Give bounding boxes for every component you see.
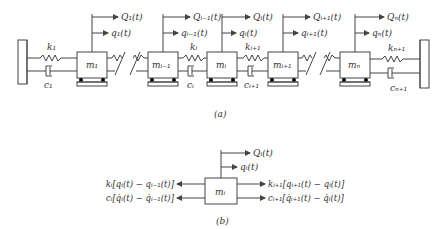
damper-c-i [178,66,207,76]
right-wall [420,40,429,88]
spring-k-n-plus-1 [370,56,420,62]
damper-c-i-plus-1 [237,66,268,76]
free-body-Q-label: Qᵢ(t) [253,148,273,158]
spring-k1 [27,55,77,61]
damper-c-n-plus-1-label: cₙ₊₁ [390,83,407,93]
mass-m-i-label: mᵢ [216,60,227,70]
left-damper-force-label: cᵢ[q̇ᵢ(t) − q̇ᵢ₋₁(t)] [106,193,175,203]
mass-m-n-label: mₙ [348,60,361,70]
left-wall [18,40,27,84]
damper-c-n-plus-1 [370,68,420,78]
disp-q1-label: q₁(t) [111,28,131,38]
damper-c1 [27,66,77,76]
mass-m-i-plus-1 [268,14,310,86]
mass-m-i-plus-1-label: mᵢ₊₁ [273,60,292,70]
damper-c-i-label: cᵢ [187,80,194,90]
left-spring-force-label: kᵢ[qᵢ(t) − qᵢ₋₁(t)] [106,179,175,189]
figure-b: mᵢ Qᵢ(t) qᵢ(t) kᵢ[qᵢ(t) − qᵢ₋₁(t)] cᵢ[q̇… [106,148,345,226]
mass-m-i [207,14,250,86]
spring-k1-label: k₁ [47,42,56,52]
damper-c-i-plus-1-label: cᵢ₊₁ [244,80,259,90]
mass-m-i-minus-1-label: mᵢ₋₁ [152,60,171,70]
disp-q-i-label: qᵢ(t) [239,28,258,38]
force-Q-i-minus-1-label: Qᵢ₋₁(t) [193,12,222,22]
spring-k-i [178,55,207,61]
disp-q-i-plus-1-label: qᵢ₊₁(t) [301,28,328,38]
right-spring-force-label: kᵢ₊₁[qᵢ₊₁(t) − qᵢ(t)] [268,179,345,189]
free-body-mass-label: mᵢ [215,187,226,197]
force-Q-n-label: Qₙ(t) [387,12,409,22]
damper-c1-label: c₁ [44,80,53,90]
force-Q-i-label: Qᵢ(t) [253,12,273,22]
disp-q-i-minus-1-label: qᵢ₋₁(t) [181,28,208,38]
mass-m1-label: m₁ [86,60,98,70]
force-Q1-label: Q₁(t) [121,12,143,22]
free-body-q-label: qᵢ(t) [240,162,259,172]
mass-m-n [340,14,384,86]
spring-k-i-plus-1 [237,55,268,61]
mass-m1 [77,14,118,86]
disp-q-n-label: qₙ(t) [372,28,393,38]
break-1 [107,52,148,75]
caption-a: (a) [214,109,227,119]
break-2 [298,52,340,75]
caption-b: (b) [216,216,229,226]
mass-m-i-minus-1 [148,14,190,86]
spring-k-i-label: kᵢ [190,42,197,52]
figure-a: k₁ c₁ m₁ Q₁(t) q₁(t) [18,12,429,119]
force-Q-i-plus-1-label: Qᵢ₊₁(t) [313,12,342,22]
mass-spring-damper-diagram: k₁ c₁ m₁ Q₁(t) q₁(t) [0,0,440,229]
spring-k-n-plus-1-label: kₙ₊₁ [388,43,405,53]
spring-k-i-plus-1-label: kᵢ₊₁ [245,42,261,52]
right-damper-force-label: cᵢ₊₁[q̇ᵢ₊₁(t) − q̇ᵢ(t)] [268,193,344,203]
